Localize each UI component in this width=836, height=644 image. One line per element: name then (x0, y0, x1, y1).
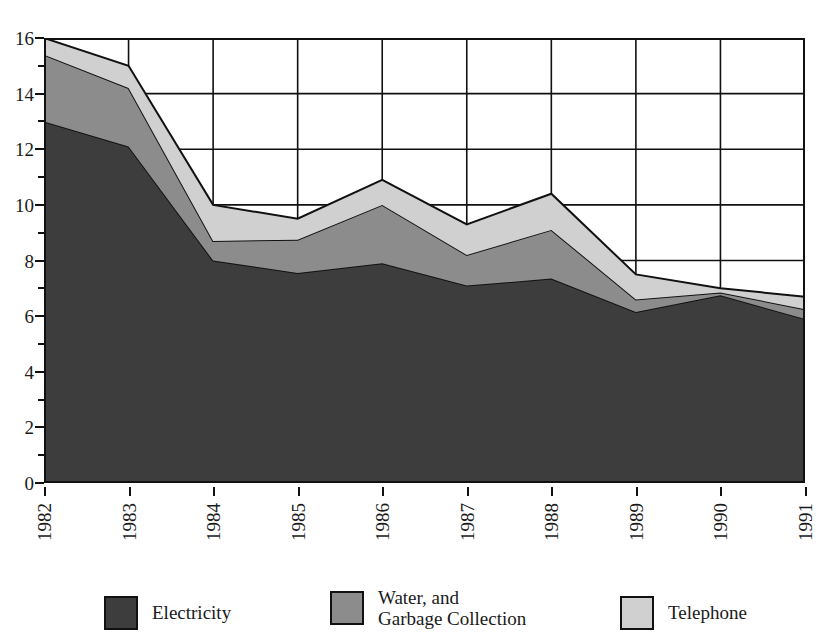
x-tick (636, 487, 638, 496)
stacked-area-chart: 0246810121416 19821983198419851986198719… (0, 0, 836, 644)
x-tick-label-1987: 1987 (457, 503, 476, 541)
y-tick-major (35, 315, 44, 317)
x-tick-label-1988: 1988 (542, 503, 561, 541)
legend-swatch-telephone (620, 596, 654, 630)
y-tick-major (35, 426, 44, 428)
x-tick-label-1982: 1982 (35, 503, 54, 541)
legend-label-telephone: Telephone (668, 602, 747, 623)
x-tick (720, 487, 722, 496)
y-tick-major (35, 482, 44, 484)
x-tick-label-1986: 1986 (373, 503, 392, 541)
legend-label-water-garbage: Water, and Garbage Collection (378, 587, 526, 630)
y-tick-label: 8 (25, 251, 35, 270)
x-tick (213, 487, 215, 496)
plot-svg (44, 38, 805, 483)
x-tick (551, 487, 553, 496)
x-tick (298, 487, 300, 496)
y-tick-label: 10 (15, 195, 34, 214)
x-tick (129, 487, 131, 496)
y-tick-label: 4 (25, 362, 35, 381)
y-axis: 0246810121416 (0, 38, 44, 483)
x-tick-label-1983: 1983 (119, 503, 138, 541)
legend-item-water-garbage[interactable]: Water, and Garbage Collection (330, 587, 526, 630)
y-tick-major (35, 371, 44, 373)
legend-item-electricity[interactable]: Electricity (104, 596, 231, 630)
y-tick-major (35, 148, 44, 150)
x-tick-label-1985: 1985 (288, 503, 307, 541)
chart-legend: Electricity Water, and Garbage Collectio… (0, 583, 836, 644)
x-tick-label-1989: 1989 (626, 503, 645, 541)
x-tick (382, 487, 384, 496)
plot-area (44, 38, 805, 483)
y-tick-label: 0 (25, 474, 35, 493)
y-tick-label: 2 (25, 418, 35, 437)
y-tick-major (35, 260, 44, 262)
y-tick-major (35, 204, 44, 206)
y-tick-label: 14 (15, 84, 34, 103)
legend-label-electricity: Electricity (152, 602, 231, 623)
y-tick-label: 6 (25, 307, 35, 326)
y-tick-major (35, 93, 44, 95)
x-tick (467, 487, 469, 496)
y-tick-label: 16 (15, 29, 34, 48)
legend-item-telephone[interactable]: Telephone (620, 596, 747, 630)
x-tick (44, 487, 46, 496)
x-tick-label-1984: 1984 (204, 503, 223, 541)
x-tick-label-1991: 1991 (796, 503, 815, 541)
legend-swatch-water-garbage (330, 591, 364, 625)
y-tick-major (35, 37, 44, 39)
x-tick (805, 487, 807, 496)
x-tick-label-1990: 1990 (711, 503, 730, 541)
y-tick-label: 12 (15, 140, 34, 159)
x-axis: 1982198319841985198619871988198919901991 (44, 483, 805, 593)
legend-swatch-electricity (104, 596, 138, 630)
